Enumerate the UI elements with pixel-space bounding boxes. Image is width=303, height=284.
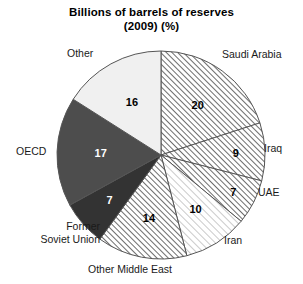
slice-value-saudi-arabia: 20 (192, 99, 204, 110)
slice-label-uae: UAE (258, 186, 280, 199)
slice-label-oecd: OECD (16, 145, 46, 158)
pie-chart-figure: Billions of barrels of reserves (2009) (… (0, 0, 303, 284)
slice-value-former-soviet-union: 7 (106, 195, 112, 206)
slice-value-iran: 10 (189, 204, 201, 215)
slice-value-oecd: 17 (95, 148, 107, 159)
slice-value-other: 16 (126, 97, 138, 108)
slice-value-uae: 7 (230, 186, 236, 197)
slice-value-other-middle-east: 14 (143, 213, 155, 224)
slice-label-former-soviet-union: Former Soviet Union (16, 220, 100, 245)
slice-label-other: Other (67, 47, 93, 60)
slice-label-saudi-arabia: Saudi Arabia (222, 48, 282, 61)
slice-label-iran: Iran (224, 234, 242, 247)
slice-value-iraq: 9 (233, 147, 239, 158)
slice-label-iraq: Iraq (264, 142, 282, 155)
slice-label-other-middle-east: Other Middle East (88, 263, 172, 276)
